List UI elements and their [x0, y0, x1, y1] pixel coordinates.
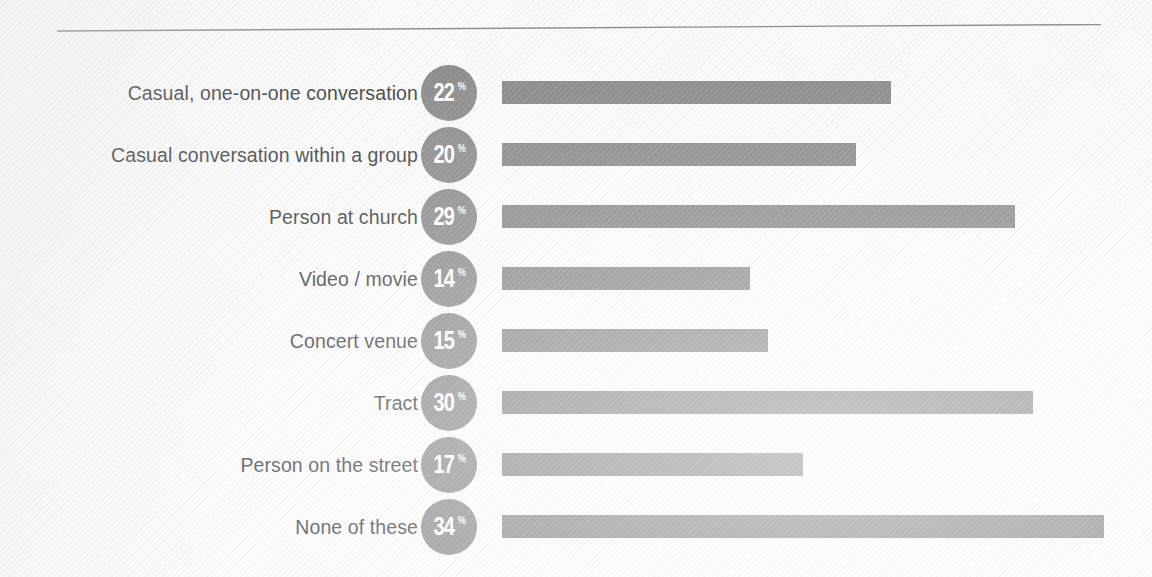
- table-row: Casual, one-on-one conversation22%: [0, 62, 1152, 124]
- percentage-badge: 22%: [421, 65, 477, 121]
- bar-fill: [502, 515, 1104, 538]
- bar-track: [502, 329, 1122, 352]
- category-label: Casual, one-on-one conversation: [128, 62, 418, 124]
- table-row: Video / movie14%: [0, 248, 1152, 310]
- percentage-value: 14: [434, 266, 454, 291]
- percentage-badge: 14%: [421, 251, 477, 307]
- percent-sign: %: [458, 329, 466, 340]
- chart-canvas: Casual, one-on-one conversation22%Casual…: [0, 0, 1152, 577]
- table-row: Person at church29%: [0, 186, 1152, 248]
- category-label: None of these: [295, 496, 418, 558]
- percentage-value: 20: [434, 142, 454, 167]
- bar-texture: [502, 515, 1104, 538]
- bar-fill: [502, 391, 1033, 414]
- percentage-badge: 29%: [421, 189, 477, 245]
- percent-sign: %: [458, 515, 466, 526]
- bar-texture: [502, 453, 803, 476]
- bar-fill: [502, 329, 768, 352]
- category-label: Concert venue: [290, 310, 418, 372]
- bar-fill: [502, 81, 891, 104]
- table-row: Person on the street17%: [0, 434, 1152, 496]
- percent-sign: %: [458, 267, 466, 278]
- percentage-value: 30: [434, 390, 454, 415]
- percentage-value: 17: [434, 452, 454, 477]
- bar-texture: [502, 143, 856, 166]
- percent-sign: %: [458, 205, 466, 216]
- percentage-value: 29: [434, 204, 454, 229]
- table-row: Tract30%: [0, 372, 1152, 434]
- table-row: Casual conversation within a group20%: [0, 124, 1152, 186]
- bar-texture: [502, 391, 1033, 414]
- bar-track: [502, 81, 1122, 104]
- category-label: Tract: [374, 372, 418, 434]
- table-row: None of these34%: [0, 496, 1152, 558]
- table-row: Concert venue15%: [0, 310, 1152, 372]
- percentage-badge: 34%: [421, 499, 477, 555]
- percentage-value: 22: [434, 80, 454, 105]
- percent-sign: %: [458, 81, 466, 92]
- bar-texture: [502, 329, 768, 352]
- bar-rows: Casual, one-on-one conversation22%Casual…: [0, 0, 1152, 577]
- percentage-badge: 30%: [421, 375, 477, 431]
- bar-texture: [502, 205, 1015, 228]
- bar-texture: [502, 267, 750, 290]
- percent-sign: %: [458, 143, 466, 154]
- bar-texture: [502, 81, 891, 104]
- percentage-badge: 15%: [421, 313, 477, 369]
- bar-track: [502, 453, 1122, 476]
- category-label: Person at church: [269, 186, 418, 248]
- category-label: Person on the street: [240, 434, 418, 496]
- percentage-value: 15: [434, 328, 454, 353]
- percent-sign: %: [458, 391, 466, 402]
- bar-fill: [502, 453, 803, 476]
- percent-sign: %: [458, 453, 466, 464]
- bar-track: [502, 267, 1122, 290]
- bar-track: [502, 143, 1122, 166]
- percentage-badge: 20%: [421, 127, 477, 183]
- bar-track: [502, 515, 1122, 538]
- category-label: Video / movie: [299, 248, 418, 310]
- percentage-badge: 17%: [421, 437, 477, 493]
- bar-track: [502, 391, 1122, 414]
- bar-track: [502, 205, 1122, 228]
- bar-fill: [502, 267, 750, 290]
- bar-fill: [502, 143, 856, 166]
- percentage-value: 34: [434, 514, 454, 539]
- bar-fill: [502, 205, 1015, 228]
- category-label: Casual conversation within a group: [111, 124, 418, 186]
